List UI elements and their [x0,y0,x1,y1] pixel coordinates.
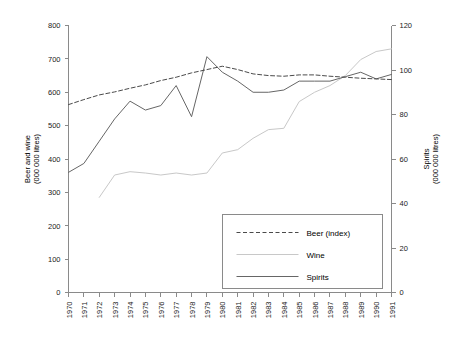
x-axis-tick-label: 1978 [188,302,197,319]
x-axis-tick-label: 1988 [341,302,350,319]
line-chart: 0100200300400500600700800Beer and wine(0… [0,0,466,340]
legend-label-wine: Wine [307,251,326,260]
legend-label-beer-index: Beer (index) [307,229,351,238]
x-axis-tick-label: 1987 [326,302,335,319]
y-axis-right-title-line2: (000 000 litres) [431,133,440,184]
y-axis-left-title-line1: Beer and wine [23,135,32,183]
x-axis-tick-label: 1985 [295,302,304,319]
y-axis-left-tick-label: 800 [48,21,61,30]
y-axis-left-tick-label: 300 [48,188,61,197]
x-axis-tick-label: 1976 [157,302,166,319]
x-axis-tick-label: 1979 [203,302,212,319]
y-axis-right-tick-label: 40 [400,199,408,208]
x-axis-tick-label: 1986 [311,302,320,319]
y-axis-right-tick-label: 60 [400,155,408,164]
series-line-beer [69,66,392,104]
chart-container: 0100200300400500600700800Beer and wine(0… [0,0,466,340]
x-axis-tick-label: 1981 [234,302,243,319]
y-axis-right-tick-label: 80 [400,110,408,119]
y-axis-left-tick-label: 100 [48,255,61,264]
y-axis-right-tick-label: 120 [400,21,413,30]
series-line-wine [99,49,391,198]
y-axis-right-tick-label: 0 [400,288,404,297]
x-axis-tick-label: 1984 [280,302,289,319]
y-axis-left-tick-label: 700 [48,55,61,64]
y-axis-left-tick-label: 0 [56,288,60,297]
x-axis-tick-label: 1972 [95,302,104,319]
y-axis-left-tick-label: 400 [48,155,61,164]
x-axis-tick-label: 1980 [218,302,227,319]
legend-label-spirits: Spirits [307,273,329,282]
x-axis-tick-label: 1974 [126,302,135,319]
series-line-spirits [69,57,392,173]
x-axis-tick-label: 1977 [172,302,181,319]
y-axis-right-title-line1: Spirits [422,148,431,169]
x-axis-tick-label: 1973 [111,302,120,319]
y-axis-right-tick-label: 100 [400,66,413,75]
y-axis-left-tick-label: 200 [48,222,61,231]
y-axis-left-title-line2: (000 000 litres) [32,133,41,184]
x-axis-tick-label: 1989 [357,302,366,319]
y-axis-left-tick-label: 500 [48,121,61,130]
x-axis-tick-label: 1983 [264,302,273,319]
x-axis-tick-label: 1975 [141,302,150,319]
legend-box [223,215,383,289]
x-axis-tick-label: 1990 [372,302,381,319]
x-axis-tick-label: 1971 [80,302,89,319]
x-axis-tick-label: 1970 [65,302,74,319]
y-axis-right-tick-label: 20 [400,244,408,253]
x-axis-tick-label: 1982 [249,302,258,319]
y-axis-left-tick-label: 600 [48,88,61,97]
x-axis-tick-label: 1991 [388,302,397,319]
